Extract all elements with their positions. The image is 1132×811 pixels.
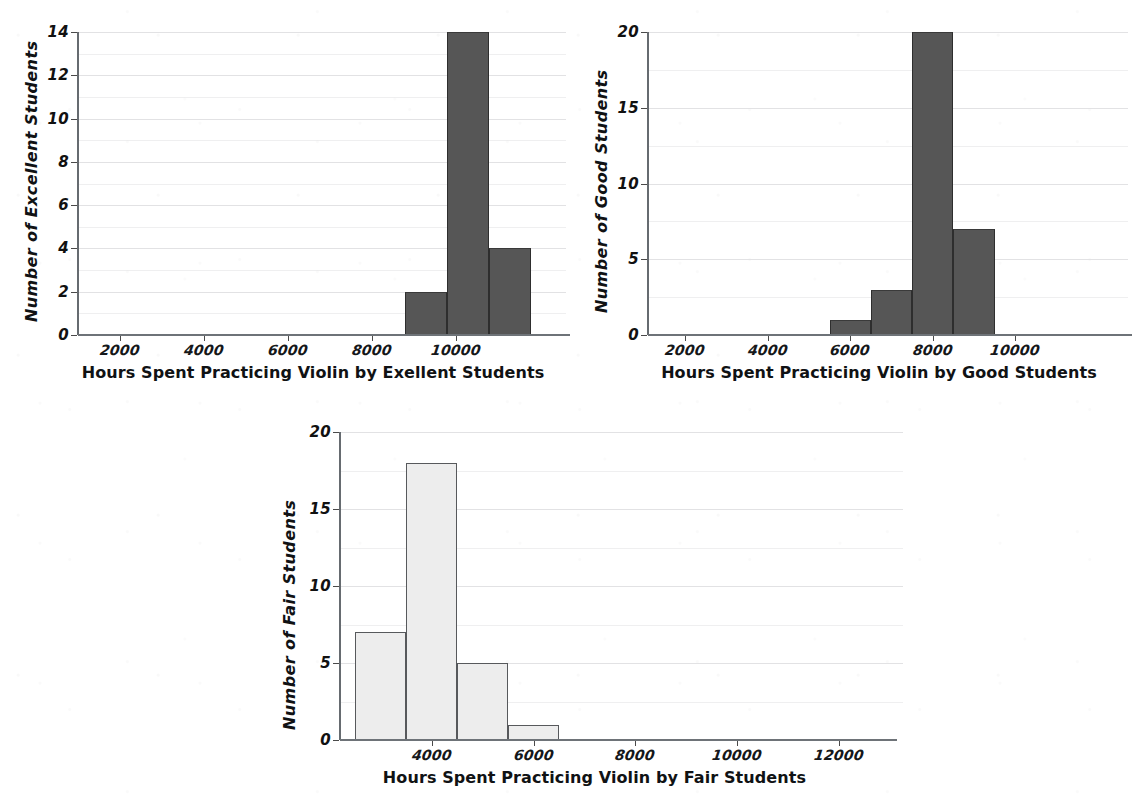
y-tick-label: 5 (628, 250, 639, 268)
y-tick-label: 8 (58, 152, 69, 170)
x-axis-label-good: Hours Spent Practicing Violin by Good St… (648, 363, 1110, 382)
x-tick-label: 10000 (711, 747, 763, 763)
gridline (648, 184, 1128, 185)
y-tick-label: 0 (320, 731, 331, 749)
y-tick-label: 2 (58, 282, 69, 300)
plot-area-excellent: 02468101214200040006000800010000 Hours S… (78, 32, 548, 335)
histogram-bar (508, 725, 559, 740)
chart-panel-excellent: 02468101214200040006000800010000 Hours S… (0, 0, 570, 390)
gridline (648, 259, 1128, 260)
gridline-minor (78, 184, 566, 185)
x-tick-label: 4000 (747, 342, 789, 358)
y-tick-mark (71, 335, 77, 336)
histogram-bar (405, 292, 447, 335)
chart-panel-good: 05101520200040006000800010000 Hours Spen… (570, 0, 1126, 390)
gridline (78, 75, 566, 76)
plot-area-good: 05101520200040006000800010000 Hours Spen… (648, 32, 1110, 335)
histogram-bar (457, 663, 508, 740)
y-axis-label-excellent: Number of Excellent Students (22, 41, 41, 322)
y-axis-line-fair (339, 432, 341, 740)
plot-area-fair: 051015204000600080001000012000 Hours Spe… (340, 432, 885, 740)
y-tick-label: 6 (58, 196, 69, 214)
x-axis-label-excellent: Hours Spent Practicing Violin by Exellen… (78, 363, 548, 382)
y-tick-mark (333, 740, 339, 741)
chart-panel-fair: 051015204000600080001000012000 Hours Spe… (250, 400, 870, 811)
x-tick-label: 6000 (829, 342, 871, 358)
gridline (340, 432, 903, 433)
x-axis-line-good (648, 334, 1132, 336)
x-tick-label: 8000 (912, 342, 954, 358)
y-tick-label: 0 (628, 326, 639, 344)
gridline-minor (648, 70, 1128, 71)
gridline-minor (78, 54, 566, 55)
gridline (78, 205, 566, 206)
x-tick-label: 8000 (614, 747, 656, 763)
x-tick-label: 10000 (989, 342, 1041, 358)
gridline (78, 162, 566, 163)
histogram-bar (406, 463, 457, 740)
x-tick-label: 2000 (99, 342, 141, 358)
y-tick-mark (641, 335, 647, 336)
y-tick-label: 20 (310, 423, 331, 441)
y-tick-label: 0 (58, 326, 69, 344)
x-tick-label: 6000 (513, 747, 555, 763)
y-tick-label: 15 (618, 98, 639, 116)
y-axis-label-fair: Number of Fair Students (280, 500, 299, 730)
x-tick-label: 10000 (430, 342, 482, 358)
histogram-bar (830, 320, 871, 335)
y-tick-label: 5 (320, 654, 331, 672)
y-tick-label: 14 (48, 23, 69, 41)
gridline-minor (78, 140, 566, 141)
x-tick-label: 2000 (664, 342, 706, 358)
gridline (648, 108, 1128, 109)
x-tick-label: 12000 (813, 747, 865, 763)
y-axis-line-excellent (77, 32, 79, 335)
y-axis-label-good: Number of Good Students (592, 69, 611, 313)
x-axis-line-excellent (78, 334, 570, 336)
histogram-bar (912, 32, 953, 335)
y-tick-label: 12 (48, 66, 69, 84)
gridline-minor (648, 146, 1128, 147)
y-tick-label: 20 (618, 23, 639, 41)
y-tick-label: 10 (618, 174, 639, 192)
x-tick-label: 4000 (411, 747, 453, 763)
y-tick-label: 10 (310, 577, 331, 595)
gridline (648, 32, 1128, 33)
y-tick-label: 15 (310, 500, 331, 518)
x-tick-label: 4000 (183, 342, 225, 358)
gridline-minor (78, 227, 566, 228)
y-tick-label: 4 (58, 239, 69, 257)
x-axis-line-fair (340, 739, 897, 741)
y-axis-line-good (647, 32, 649, 335)
gridline (78, 119, 566, 120)
gridline-minor (78, 97, 566, 98)
gridline-minor (648, 221, 1128, 222)
histogram-bar (489, 248, 531, 335)
x-tick-label: 8000 (351, 342, 393, 358)
y-tick-label: 10 (48, 109, 69, 127)
gridline (78, 32, 566, 33)
histogram-bar (953, 229, 994, 335)
histogram-bar (355, 632, 406, 740)
x-tick-label: 6000 (267, 342, 309, 358)
histogram-bar (447, 32, 489, 335)
x-axis-label-fair: Hours Spent Practicing Violin by Fair St… (322, 768, 867, 787)
histogram-bar (871, 290, 912, 335)
